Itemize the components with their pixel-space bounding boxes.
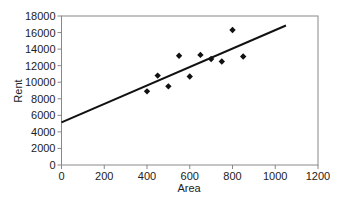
data-point-diamond: [240, 53, 246, 59]
y-tick-label: 6000: [31, 109, 55, 121]
x-tick-label: 400: [138, 170, 156, 182]
y-tick-label: 14000: [25, 43, 56, 55]
axes: [58, 16, 319, 169]
data-point-diamond: [219, 58, 225, 64]
x-axis-label: Area: [177, 182, 201, 194]
trendline: [62, 26, 286, 123]
plot-area-frame: [62, 16, 319, 165]
y-tick-label: 18000: [25, 10, 56, 22]
data-point-diamond: [144, 88, 150, 94]
y-tick-label: 12000: [25, 60, 56, 72]
chart-canvas: 0200040006000800010000120001400016000180…: [0, 0, 338, 203]
y-tick-label: 2000: [31, 142, 55, 154]
data-point-diamond: [176, 53, 182, 59]
x-tick-label: 0: [58, 170, 64, 182]
scatter-chart: 0200040006000800010000120001400016000180…: [0, 0, 338, 203]
y-tick-label: 8000: [31, 93, 55, 105]
data-point-diamond: [229, 27, 235, 33]
x-tick-label: 1000: [263, 170, 287, 182]
x-tick-label: 800: [223, 170, 241, 182]
x-tick-label: 200: [95, 170, 113, 182]
x-tick-label: 600: [181, 170, 199, 182]
tick-labels: 0200040006000800010000120001400016000180…: [25, 10, 330, 182]
y-tick-label: 0: [49, 159, 55, 171]
trendline-path: [62, 26, 286, 123]
data-point-diamond: [197, 52, 203, 58]
data-points: [144, 27, 247, 95]
y-tick-label: 16000: [25, 27, 56, 39]
x-tick-label: 1200: [306, 170, 330, 182]
y-tick-label: 10000: [25, 76, 56, 88]
data-point-diamond: [154, 72, 160, 78]
data-point-diamond: [165, 83, 171, 89]
y-tick-label: 4000: [31, 126, 55, 138]
y-axis-label: Rent: [12, 79, 24, 102]
data-point-diamond: [187, 73, 193, 79]
